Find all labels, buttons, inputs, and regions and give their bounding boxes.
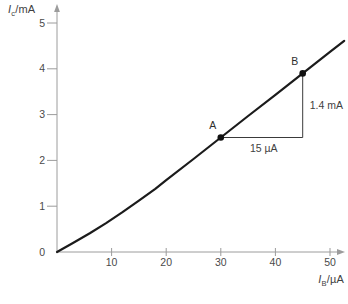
x-tick-label-20: 20	[160, 256, 172, 268]
y-tick-label-4: 4	[39, 62, 45, 74]
point-B-marker	[299, 70, 306, 77]
y-axis-arrowhead-icon	[54, 4, 60, 12]
point-A-marker	[218, 134, 225, 141]
x-tick-label-50: 50	[324, 256, 336, 268]
chart-plot: 102030405001234515 µA1.4 mAAB	[0, 0, 348, 304]
x-tick-label-10: 10	[106, 256, 118, 268]
point-A-label: A	[209, 119, 216, 131]
y-tick-label-1: 1	[39, 200, 45, 212]
rise-value-label: 1.4 mA	[310, 99, 343, 111]
run-value-label: 15 µA	[250, 142, 278, 154]
point-B-label: B	[291, 55, 298, 67]
x-axis-arrowhead-icon	[337, 249, 345, 255]
y-tick-label-0: 0	[39, 246, 45, 258]
x-tick-label-30: 30	[215, 256, 227, 268]
y-tick-label-3: 3	[39, 108, 45, 120]
x-axis-title: IB/µA	[318, 273, 344, 285]
transistor-transfer-characteristic-figure: Ic/mA 102030405001234515 µA1.4 mAAB IB/µ…	[0, 0, 348, 304]
x-tick-label-40: 40	[270, 256, 282, 268]
y-tick-label-2: 2	[39, 154, 45, 166]
y-tick-label-5: 5	[39, 17, 45, 29]
x-axis-unit: /µA	[327, 273, 344, 285]
